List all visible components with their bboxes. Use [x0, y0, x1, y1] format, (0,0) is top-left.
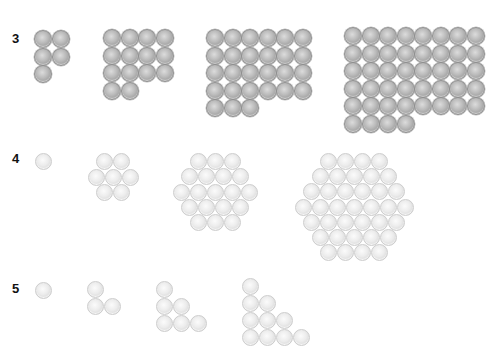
ball-icon [344, 27, 362, 45]
ball-icon [87, 281, 104, 298]
row-label: 3 [12, 31, 19, 46]
ball-icon [414, 80, 432, 98]
ball-icon [294, 82, 312, 100]
ball-icon [432, 62, 450, 80]
ball-icon [397, 27, 415, 45]
ball-icon [121, 64, 139, 82]
ball-icon [198, 168, 215, 185]
ball-icon [312, 199, 329, 216]
ball-icon [363, 199, 380, 216]
ball-icon [35, 282, 52, 299]
ball-icon [224, 47, 242, 65]
ball-icon [224, 214, 241, 231]
ball-icon [259, 82, 277, 100]
ball-icon [241, 184, 258, 201]
ball-icon [242, 295, 259, 312]
ball-icon [215, 168, 232, 185]
ball-icon [241, 47, 259, 65]
ball-icon [105, 169, 122, 186]
ball-icon [432, 45, 450, 63]
ball-icon [371, 244, 388, 261]
ball-icon [181, 199, 198, 216]
ball-icon [122, 169, 139, 186]
ball-icon [198, 199, 215, 216]
ball-icon [156, 315, 173, 332]
ball-icon [190, 184, 207, 201]
ball-icon [276, 29, 294, 47]
ball-icon [207, 184, 224, 201]
ball-icon [467, 80, 485, 98]
ball-icon [346, 199, 363, 216]
ball-icon [295, 199, 312, 216]
ball-icon [344, 62, 362, 80]
ball-icon [432, 27, 450, 45]
ball-icon [449, 80, 467, 98]
ball-icon [241, 82, 259, 100]
ball-icon [414, 97, 432, 115]
ball-icon [259, 295, 276, 312]
ball-icon [181, 168, 198, 185]
ball-icon [414, 62, 432, 80]
ball-icon [354, 183, 371, 200]
ball-icon [467, 97, 485, 115]
ball-icon [156, 47, 174, 65]
ball-icon [113, 153, 130, 170]
ball-icon [241, 99, 259, 117]
ball-icon [242, 312, 259, 329]
ball-icon [156, 281, 173, 298]
ball-icon [388, 183, 405, 200]
ball-icon [206, 29, 224, 47]
ball-icon [379, 45, 397, 63]
ball-icon [121, 29, 139, 47]
ball-icon [371, 214, 388, 231]
ball-icon [337, 244, 354, 261]
ball-icon [224, 82, 242, 100]
ball-icon [232, 199, 249, 216]
ball-icon [379, 80, 397, 98]
ball-icon [173, 184, 190, 201]
ball-icon [224, 99, 242, 117]
ball-icon [362, 97, 380, 115]
ball-icon [156, 29, 174, 47]
row-label: 4 [12, 151, 19, 166]
ball-icon [379, 97, 397, 115]
ball-icon [232, 168, 249, 185]
ball-icon [467, 45, 485, 63]
ball-icon [362, 27, 380, 45]
ball-icon [224, 64, 242, 82]
ball-icon [379, 27, 397, 45]
ball-icon [103, 64, 121, 82]
ball-icon [259, 329, 276, 346]
ball-icon [88, 169, 105, 186]
ball-icon [397, 97, 415, 115]
ball-icon [104, 298, 121, 315]
row-label: 5 [12, 281, 19, 296]
ball-icon [207, 214, 224, 231]
ball-icon [362, 45, 380, 63]
ball-icon [190, 214, 207, 231]
ball-icon [34, 30, 52, 48]
ball-icon [103, 47, 121, 65]
ball-icon [276, 47, 294, 65]
ball-icon [414, 27, 432, 45]
ball-icon [87, 298, 104, 315]
ball-icon [467, 27, 485, 45]
ball-icon [121, 47, 139, 65]
ball-icon [320, 214, 337, 231]
ball-icon [103, 29, 121, 47]
ball-icon [397, 115, 415, 133]
ball-icon [294, 47, 312, 65]
ball-icon [397, 45, 415, 63]
ball-icon [121, 82, 139, 100]
ball-icon [206, 47, 224, 65]
ball-icon [276, 312, 293, 329]
ball-icon [242, 278, 259, 295]
ball-icon [206, 64, 224, 82]
ball-icon [173, 315, 190, 332]
ball-icon [206, 99, 224, 117]
ball-icon [380, 229, 397, 246]
ball-icon [224, 184, 241, 201]
ball-icon [259, 64, 277, 82]
ball-icon [113, 184, 130, 201]
ball-icon [320, 183, 337, 200]
